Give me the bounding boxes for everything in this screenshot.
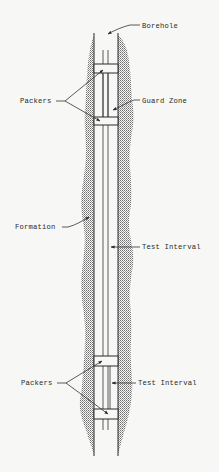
label-guard-zone: Guard Zone (142, 97, 187, 105)
label-packers-top: Packers (20, 97, 52, 105)
leader-borehole (108, 25, 140, 34)
borehole-diagram: Borehole Packers Guard Zone Formation Te… (0, 0, 219, 472)
formation-left (80, 35, 94, 455)
packer-upper-2 (94, 117, 118, 125)
leader-packers-top-2 (65, 101, 100, 121)
packer-lower-2 (94, 409, 118, 419)
label-test-interval-bottom: Test Interval (138, 379, 197, 387)
packer-lower-1 (94, 356, 118, 366)
leader-packers-top-1 (65, 70, 103, 101)
label-packers-bottom: Packers (21, 379, 53, 387)
label-formation: Formation (15, 223, 56, 231)
label-test-interval-middle: Test Interval (142, 243, 201, 251)
packer-upper-1 (94, 64, 118, 73)
formation-right (118, 35, 134, 455)
label-borehole: Borehole (142, 22, 178, 30)
